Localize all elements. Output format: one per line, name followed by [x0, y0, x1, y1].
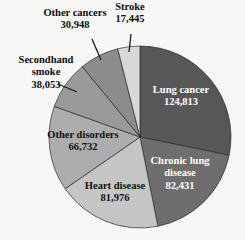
pie-label-value: 82,431	[166, 180, 195, 191]
pie-chart-svg: Lung cancer124,813Chronic lungdisease82,…	[0, 0, 245, 240]
pie-label-name: Chronic lung	[150, 155, 210, 166]
pie-label-name: Other disorders	[47, 129, 118, 140]
pie-label-name: Stroke	[115, 1, 145, 12]
pie-label-stroke: Stroke17,445	[115, 1, 145, 25]
pie-label-value: 17,445	[116, 14, 145, 25]
pie-chart: Lung cancer124,813Chronic lungdisease82,…	[0, 0, 245, 240]
pie-label-name: Lung cancer	[153, 84, 210, 95]
pie-label-value: 81,976	[101, 193, 130, 204]
pie-label-name: disease	[164, 167, 196, 178]
pie-label-value: 124,813	[164, 97, 198, 108]
pie-label-other-cancers: Other cancers30,948	[43, 7, 106, 31]
pie-label-name: Secondhand	[19, 54, 74, 65]
pie-label-value: 38,053	[32, 79, 61, 90]
pie-label-name: Heart disease	[85, 180, 146, 191]
pie-label-value: 30,948	[61, 20, 90, 31]
pie-label-name: smoke	[32, 66, 61, 77]
pie-label-name: Other cancers	[43, 7, 106, 18]
pie-label-value: 66,732	[69, 142, 98, 153]
